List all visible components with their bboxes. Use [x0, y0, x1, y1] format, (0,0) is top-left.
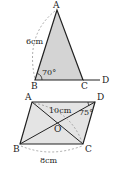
parallelogram-figure: A D B C O 10cm 75° 8cm — [13, 92, 104, 165]
vertex-label-c: C — [85, 144, 92, 154]
angle-label: 70° — [42, 68, 56, 77]
vertex-label-a: A — [24, 92, 32, 102]
triangle-figure: A B C D 6cm 70° — [26, 0, 109, 91]
vertex-label-d: D — [102, 75, 109, 85]
vertex-label-b: B — [31, 81, 38, 91]
diagonal-length-label: 10cm — [49, 106, 72, 115]
base-length-label: 8cm — [40, 156, 58, 165]
vertex-label-d: D — [97, 92, 104, 102]
angle-label: 75° — [79, 108, 93, 117]
center-label-o: O — [54, 124, 61, 134]
vertex-label-b: B — [13, 144, 20, 154]
side-length-label: 6cm — [26, 37, 44, 46]
side-bc-dimension-arc — [21, 146, 82, 152]
vertex-label-a: A — [52, 0, 60, 10]
geometry-figures: A B C D 6cm 70° A D B C O 10cm 75° 8cm — [0, 0, 114, 170]
vertex-label-c: C — [81, 81, 88, 91]
